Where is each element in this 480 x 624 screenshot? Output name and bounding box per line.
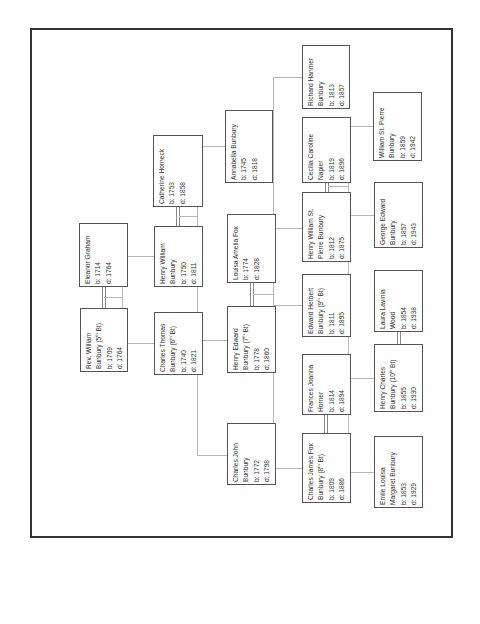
person-name: William St. Pierre (377, 97, 387, 158)
person-name: Annabella Bunbury (229, 115, 239, 180)
connector (179, 216, 197, 217)
person-title: Bunbury (10th Bt) (388, 349, 398, 409)
person-edward-herbert-bunbury: Edward Herbert Bunbury (9th Bt) b: 1811 … (302, 274, 351, 337)
death-year: d: 1894 (337, 359, 347, 412)
person-name-line2: Bunbury (168, 231, 178, 284)
birth-year: b: 1714 (93, 228, 103, 284)
birth-year: b: 1745 (239, 115, 249, 180)
person-henry-william-bunbury: Henry William Bunbury b: 1750 d: 1811 (154, 226, 203, 287)
death-year: d: 1886 (337, 438, 347, 500)
person-rev-william-bunbury: Rev, William Bunbury (5th Bt) b: 1709 d:… (80, 308, 128, 372)
person-name: Eleanor Graham (83, 228, 93, 284)
person-name-line2: Bunbury (241, 428, 251, 482)
person-richard-hanmer-bunbury: Richard Hanmer Bunbury b: 1813 d: 1857 (302, 45, 350, 109)
birth-year: b: 1813 (327, 50, 337, 106)
death-year: d: 1942 (408, 97, 418, 158)
person-name: Catherine Horneck (157, 140, 167, 204)
birth-year: b: 1814 (327, 359, 337, 412)
death-year: d: 1821 (189, 317, 199, 372)
connector (273, 468, 302, 469)
birth-year: b: 1753 (167, 140, 177, 204)
connector (348, 378, 374, 379)
death-year: d: 1858 (178, 140, 188, 204)
person-name-line2: Bunbury (316, 50, 326, 106)
person-henry-william-st-pierre-bunbury: Henry William St. Pierre Bunbury b: 1812… (302, 192, 351, 262)
birth-year: b: 1809 (327, 438, 337, 500)
person-name: Emile Louisa (378, 441, 388, 505)
death-year: d: 1860 (262, 311, 272, 370)
person-frances-joanna-horner: Frances Joanna Horner b: 1814 d: 1894 (302, 354, 351, 415)
birth-year: b: 1854 (399, 275, 409, 329)
person-name-line2: Bunbury (387, 97, 397, 158)
birth-year: b: 1819 (327, 122, 337, 180)
death-year: d: 1798 (262, 428, 272, 482)
person-title: Bunbury (7th Bt) (241, 311, 251, 370)
birth-year: b: 1812 (327, 197, 337, 259)
connector (104, 297, 122, 298)
person-title: Bunbury (5th Bt) (94, 313, 104, 369)
person-name: Frances Joanna (306, 359, 316, 412)
connector (273, 77, 302, 78)
death-year: d: 1857 (337, 50, 347, 106)
death-year: d: 1764 (115, 313, 125, 369)
birth-year: b: 1740 (179, 317, 189, 372)
death-year: d: 1930 (409, 349, 419, 409)
death-year: d: 1811 (189, 231, 199, 284)
connector (197, 455, 227, 456)
connector (273, 228, 302, 229)
birth-year: b: 1853 (399, 441, 409, 505)
person-henry-edward-bunbury: Henry Edward Bunbury (7th Bt) b: 1778 d:… (227, 306, 276, 373)
person-name: Charles Thomas (158, 317, 168, 372)
connector (328, 186, 348, 187)
death-year: d: 1895 (337, 279, 347, 334)
connector (253, 294, 273, 295)
connector (348, 126, 373, 127)
person-cecilia-caroline-napier: Cecilia Caroline Napier b: 1819 d: 1896 (302, 117, 351, 183)
person-charles-james-fox-bunbury: Charles James Fox Bunbury (8th Bt) b: 18… (302, 433, 351, 503)
death-year: d: 1938 (409, 275, 419, 329)
death-year: d: 1764 (104, 228, 114, 284)
death-year: d: 1896 (337, 122, 347, 180)
person-name: Charles John (231, 428, 241, 482)
person-name-line2: Wood (388, 275, 398, 329)
birth-year: b: 1855 (399, 349, 409, 409)
person-name: Rev, William (84, 313, 94, 369)
person-name-line2: Napier (316, 122, 326, 180)
marriage-line (397, 332, 401, 344)
person-name: Henry Charles (378, 349, 388, 409)
person-name: Henry William (158, 231, 168, 284)
person-title: Bunbury (6th Bt) (168, 317, 178, 372)
person-george-edward-bunbury: George Edward Bunbury b: 1857 d: 1943 (374, 182, 423, 248)
person-annabella-bunbury: Annabella Bunbury b: 1745 d: 1818 (225, 110, 273, 183)
person-name: Charles James Fox (306, 438, 316, 500)
person-name: George Edward (378, 187, 388, 245)
death-year: d: 1818 (250, 115, 260, 180)
person-catherine-horneck: Catherine Horneck b: 1753 d: 1858 (153, 135, 203, 207)
person-name: Henry William St. (306, 197, 316, 259)
person-name: Henry Edward (231, 311, 241, 370)
person-name: Laura Lavinia (378, 275, 388, 329)
birth-year: b: 1811 (327, 279, 337, 334)
person-name-line2: Bunbury (388, 187, 398, 245)
connector (273, 305, 302, 306)
person-name: Edward Herbert (306, 279, 316, 334)
birth-year: b: 1859 (398, 97, 408, 158)
person-william-st-pierre-bunbury: William St. Pierre Bunbury b: 1859 d: 19… (373, 92, 422, 161)
connector (348, 215, 374, 216)
person-name: Louisa Amelia Fox (231, 219, 241, 280)
person-name: Richard Hanmer (306, 50, 316, 106)
person-eleanor-graham: Eleanor Graham b: 1714 d: 1764 (79, 223, 128, 287)
death-year: d: 1943 (409, 187, 419, 245)
person-charles-thomas-bunbury: Charles Thomas Bunbury (6th Bt) b: 1740 … (154, 312, 203, 375)
birth-year: b: 1772 (252, 428, 262, 482)
marriage-line (325, 183, 329, 192)
person-charles-john-bunbury: Charles John Bunbury b: 1772 d: 1798 (227, 423, 276, 485)
person-name: Cecilia Caroline (306, 122, 316, 180)
death-year: d: 1929 (409, 441, 419, 505)
birth-year: b: 1774 (241, 219, 251, 280)
birth-year: b: 1750 (179, 231, 189, 284)
person-laura-lavinia-wood: Laura Lavinia Wood b: 1854 d: 1938 (374, 270, 423, 332)
birth-year: b: 1857 (399, 187, 409, 245)
person-name-line2: Margaret Bunbury (388, 441, 398, 505)
death-year: d: 1875 (337, 197, 347, 259)
